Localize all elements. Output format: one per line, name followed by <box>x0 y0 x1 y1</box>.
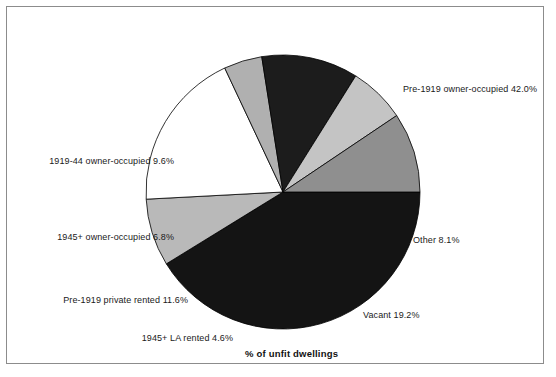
pie-chart-canvas <box>0 0 556 377</box>
pie-label-pre-1919-owner-occupied: Pre-1919 owner-occupied 42.0% <box>403 84 537 95</box>
pie-label-1945-plus-la-rented: 1945+ LA rented 4.6% <box>78 333 233 344</box>
pie-label-pre-1919-private-rented: Pre-1919 private rented 11.6% <box>15 295 188 306</box>
pie-label-1945-plus-owner-occupied: 1945+ owner-occupied 6.8% <box>16 232 174 243</box>
pie-label-other: Other 8.1% <box>413 235 460 246</box>
pie-chart-figure: Pre-1919 owner-occupied 42.0% Other 8.1%… <box>0 0 556 377</box>
pie-label-vacant: Vacant 19.2% <box>363 310 420 321</box>
axis-title: % of unfit dwellings <box>245 348 338 359</box>
pie-slice-group <box>146 55 420 329</box>
pie-label-1919-44-owner-occupied: 1919-44 owner-occupied 9.6% <box>12 156 174 167</box>
